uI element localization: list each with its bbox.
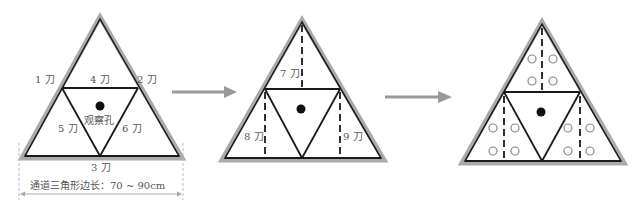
observation-hole-dot	[537, 108, 546, 117]
observation-hole-label: 观察孔	[84, 114, 114, 126]
arrow-right-icon	[385, 91, 452, 103]
cutting-diagram: 1 刀 2 刀 4 刀 5 刀 6 刀 观察孔 3 刀 通道三角形边长：70 ~…	[0, 0, 642, 215]
arrow-right-icon	[172, 86, 237, 98]
triangle-step3	[462, 22, 624, 163]
observation-hole-dot	[96, 102, 105, 111]
triangle-step1: 1 刀 2 刀 4 刀 5 刀 6 刀 观察孔 3 刀 通道三角形边长：70 ~…	[19, 17, 183, 200]
observation-hole-dot	[297, 105, 306, 114]
cut-label-2: 2 刀	[137, 74, 157, 85]
cut-label-8: 8 刀	[244, 131, 264, 142]
triangle-step2: 7 刀 8 刀 9 刀	[222, 20, 384, 160]
dimension-label: 通道三角形边长：70 ~ 90cm	[30, 179, 166, 191]
cut-label-3: 3 刀	[91, 162, 111, 173]
cut-label-9: 9 刀	[343, 131, 363, 142]
cut-label-6: 6 刀	[122, 123, 142, 134]
cut-label-5: 5 刀	[58, 123, 78, 134]
cut-label-7: 7 刀	[280, 68, 300, 79]
cut-label-1: 1 刀	[35, 74, 55, 85]
cut-label-4: 4 刀	[90, 74, 110, 85]
